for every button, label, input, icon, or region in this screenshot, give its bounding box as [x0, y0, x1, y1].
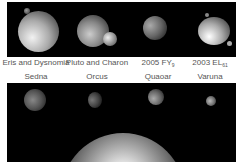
charon-moon	[103, 32, 117, 46]
varuna-body	[206, 96, 216, 106]
quaoar-body	[148, 89, 164, 105]
label-sedna: Sedna	[24, 72, 47, 81]
label-varuna: Varuna	[197, 72, 222, 81]
label-2005-fy9-main: 2005 FY	[141, 58, 171, 67]
bottom-image-panel	[7, 83, 236, 162]
label-2005-fy9: 2005 FY9	[141, 58, 174, 70]
label-quaoar: Quaoar	[145, 72, 172, 81]
top-image-panel	[7, 2, 236, 57]
sedna-body	[24, 89, 46, 111]
label-2003-el61: 2003 EL61	[192, 58, 227, 70]
label-eris: Eris and Dysnomia	[2, 58, 69, 67]
label-2003-el61-sub: 61	[222, 62, 228, 68]
eris-body	[18, 11, 59, 52]
orcus-body	[88, 92, 102, 108]
2003-el61-body	[198, 17, 230, 45]
label-orcus: Orcus	[86, 72, 107, 81]
2003-el61-moon-2	[227, 41, 232, 46]
label-pluto: Pluto and Charon	[66, 58, 128, 67]
label-2003-el61-main: 2003 EL	[192, 58, 222, 67]
label-2005-fy9-sub: 9	[172, 62, 175, 68]
2005-fy9-body	[143, 16, 167, 40]
earth-body	[61, 133, 185, 162]
2003-el61-moon-1	[205, 13, 209, 17]
